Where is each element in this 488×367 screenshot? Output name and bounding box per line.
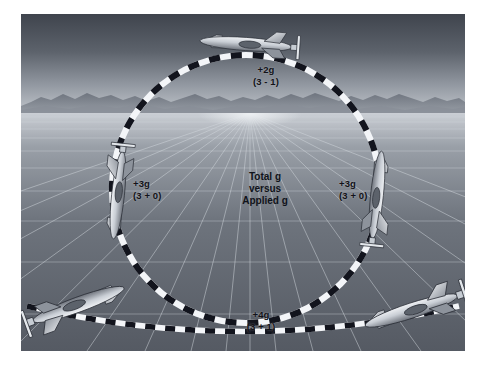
illustration-plate: Total g versus Applied g +2g (3 - 1) +3g… xyxy=(21,14,465,351)
label-left: +3g (3 + 0) xyxy=(133,178,195,201)
label-bottom-g: +4g xyxy=(253,309,270,320)
label-right-g: +3g xyxy=(339,178,356,189)
center-title-line-3: Applied g xyxy=(219,195,311,207)
label-bottom-calc: (3 + 1) xyxy=(219,321,303,333)
label-bottom: +4g (3 + 1) xyxy=(219,309,303,332)
label-top-g: +2g xyxy=(258,64,275,75)
figure-root: Total g versus Applied g +2g (3 - 1) +3g… xyxy=(0,0,488,367)
label-top-calc: (3 - 1) xyxy=(224,76,308,88)
label-top: +2g (3 - 1) xyxy=(224,64,308,87)
label-right: +3g (3 + 0) xyxy=(339,178,401,201)
label-right-calc: (3 + 0) xyxy=(339,190,401,202)
center-title: Total g versus Applied g xyxy=(219,171,311,207)
center-title-line-2: versus xyxy=(219,183,311,195)
label-left-g: +3g xyxy=(133,178,150,189)
center-title-line-1: Total g xyxy=(219,171,311,183)
label-left-calc: (3 + 0) xyxy=(133,190,195,202)
